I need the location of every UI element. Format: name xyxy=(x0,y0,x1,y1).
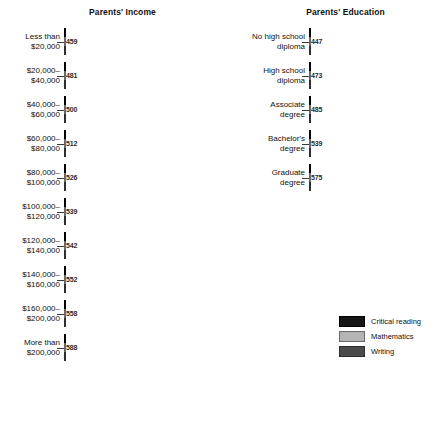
bar-reading: 504 xyxy=(64,130,194,139)
bar-value-label: 539 xyxy=(309,140,322,147)
bar-group: Graduate degree560575551 xyxy=(221,164,442,191)
bar-value-label: 552 xyxy=(64,276,77,283)
bar-math: 558 xyxy=(64,309,228,318)
bar-group: $40,000– $60,000489500474 xyxy=(0,96,221,123)
bar-group: High school diploma462473450 xyxy=(221,62,442,89)
category-label: $60,000– $80,000 xyxy=(0,134,64,153)
bar-math: 485 xyxy=(309,105,427,114)
bar-value-label: 421 xyxy=(309,29,322,36)
category-label: $140,000– $160,000 xyxy=(0,270,64,289)
bars-container: 560575551 xyxy=(309,164,442,191)
income-bar-groups: Less than $20,000436459429$20,000– $40,0… xyxy=(0,28,221,368)
bar-math: 481 xyxy=(64,71,180,80)
panel-title-education: Parents' Education xyxy=(235,7,442,17)
bar-writing: 487 xyxy=(64,148,183,157)
bar-reading: 462 xyxy=(309,62,413,71)
bar-reading: 480 xyxy=(309,96,424,105)
bar-value-label: 429 xyxy=(64,47,77,54)
bar-value-label: 463 xyxy=(309,115,322,122)
legend-label: Writing xyxy=(371,347,394,356)
bar-writing: 474 xyxy=(64,114,175,123)
bar-reading: 560 xyxy=(309,164,442,173)
bar-value-label: 481 xyxy=(64,72,77,79)
bar-value-label: 504 xyxy=(64,131,77,138)
bar-group: More than $200,000569588565 xyxy=(0,334,221,361)
category-label: $160,000– $200,000 xyxy=(0,304,64,323)
bar-group: $80,000– $100,000516526501 xyxy=(0,164,221,191)
bar-value-label: 558 xyxy=(64,310,77,317)
legend-item-math: Mathematics xyxy=(339,331,421,342)
bar-value-label: 542 xyxy=(64,242,77,249)
category-label: More than $200,000 xyxy=(0,338,64,357)
bar-writing: 501 xyxy=(64,182,192,191)
bar-value-label: 462 xyxy=(309,63,322,70)
bar-value-label: 485 xyxy=(309,106,322,113)
bar-reading: 516 xyxy=(64,164,202,173)
bar-group: $160,000– $200,000544558534 xyxy=(0,300,221,327)
education-bar-groups: No high school diploma421447418High scho… xyxy=(221,28,442,198)
bar-writing: 534 xyxy=(64,318,213,327)
legend-swatch-reading xyxy=(339,316,365,327)
bars-container: 523539512 xyxy=(309,130,442,157)
bar-group: Bachelor's degree523539512 xyxy=(221,130,442,157)
bar-value-label: 575 xyxy=(309,174,322,181)
bar-writing: 565 xyxy=(64,352,232,361)
bar-reading: 489 xyxy=(64,96,185,105)
bar-reading: 467 xyxy=(64,62,171,71)
bars-container: 504512487 xyxy=(64,130,199,157)
bar-reading: 531 xyxy=(64,232,211,241)
bar-value-label: 501 xyxy=(64,183,77,190)
bar-math: 473 xyxy=(309,71,420,80)
bar-value-label: 531 xyxy=(64,233,77,240)
bar-math: 447 xyxy=(309,37,403,46)
bar-value-label: 455 xyxy=(64,81,77,88)
legend-swatch-writing xyxy=(339,346,365,357)
bar-writing: 463 xyxy=(309,114,413,123)
bar-value-label: 588 xyxy=(64,344,77,351)
bars-container: 569588565 xyxy=(64,334,247,361)
bars-container: 436459429 xyxy=(64,28,166,55)
category-label: $100,000– $120,000 xyxy=(0,202,64,221)
bars-container: 527539513 xyxy=(64,198,216,225)
bar-group: $100,000– $120,000527539513 xyxy=(0,198,221,225)
bar-group: $20,000– $40,000467481455 xyxy=(0,62,221,89)
legend-label: Mathematics xyxy=(371,332,414,341)
bar-writing: 518 xyxy=(64,250,203,259)
bars-container: 480485463 xyxy=(309,96,427,123)
bar-math: 552 xyxy=(64,275,224,284)
bar-value-label: 447 xyxy=(309,38,322,45)
bar-math: 575 xyxy=(309,173,442,182)
legend-item-writing: Writing xyxy=(339,346,421,357)
bars-container: 421447418 xyxy=(309,28,403,55)
bar-value-label: 569 xyxy=(64,335,77,342)
bar-reading: 523 xyxy=(309,130,442,139)
legend-item-reading: Critical reading xyxy=(339,316,421,327)
bar-writing: 450 xyxy=(309,80,405,89)
bar-value-label: 512 xyxy=(309,149,322,156)
category-label: High school diploma xyxy=(221,66,309,85)
chart-legend: Critical readingMathematicsWriting xyxy=(339,316,421,357)
category-label: $40,000– $60,000 xyxy=(0,100,64,119)
chart-page: Parents' Income Less than $20,0004364594… xyxy=(0,0,442,424)
bars-container: 467481455 xyxy=(64,62,180,89)
panel-title-income: Parents' Income xyxy=(12,7,233,17)
bar-math: 512 xyxy=(64,139,199,148)
bar-writing: 429 xyxy=(64,46,147,55)
bar-math: 542 xyxy=(64,241,218,250)
legend-swatch-math xyxy=(339,331,365,342)
bar-writing: 418 xyxy=(309,46,385,55)
bar-value-label: 474 xyxy=(64,115,77,122)
bar-math: 539 xyxy=(309,139,442,148)
bar-value-label: 539 xyxy=(64,208,77,215)
bars-container: 544558534 xyxy=(64,300,228,327)
category-label: $20,000– $40,000 xyxy=(0,66,64,85)
bar-value-label: 523 xyxy=(309,131,322,138)
bar-value-label: 544 xyxy=(64,301,77,308)
bar-value-label: 489 xyxy=(64,97,77,104)
bar-value-label: 487 xyxy=(64,149,77,156)
bar-value-label: 459 xyxy=(64,38,77,45)
bars-container: 462473450 xyxy=(309,62,420,89)
bar-math: 539 xyxy=(64,207,216,216)
bar-math: 588 xyxy=(64,343,247,352)
bar-reading: 527 xyxy=(64,198,208,207)
